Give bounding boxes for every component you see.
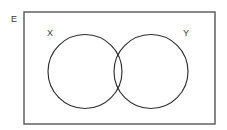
venn-diagram-canvas: E X Y bbox=[0, 0, 227, 130]
venn-diagram-figure: E X Y bbox=[0, 0, 227, 130]
set-y-label: Y bbox=[183, 28, 189, 38]
universal-set-label: E bbox=[11, 14, 17, 24]
set-x-label: X bbox=[47, 28, 53, 38]
